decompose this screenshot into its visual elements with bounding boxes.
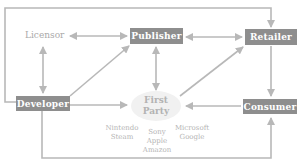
example-sony: Sony bbox=[140, 128, 174, 137]
node-consumer: Consumer bbox=[243, 99, 297, 114]
edge-developer-retailer-loop bbox=[5, 8, 271, 102]
example-microsoft: Microsoft bbox=[172, 124, 212, 133]
examples-left: Nintendo Steam bbox=[104, 124, 140, 142]
example-apple: Apple bbox=[140, 137, 174, 146]
edge-firstparty-retailer bbox=[180, 47, 243, 96]
example-nintendo: Nintendo bbox=[104, 124, 140, 133]
examples-center: Sony Apple Amazon bbox=[140, 128, 174, 155]
node-developer: Developer bbox=[16, 96, 70, 111]
edge-developer-publisher bbox=[70, 46, 129, 96]
example-amazon: Amazon bbox=[140, 146, 174, 155]
node-publisher: Publisher bbox=[130, 28, 183, 44]
example-google: Google bbox=[172, 133, 212, 142]
node-licensor: Licensor bbox=[25, 30, 64, 40]
examples-right: Microsoft Google bbox=[172, 124, 212, 142]
first-party-line1: First bbox=[144, 95, 168, 106]
first-party-line2: Party bbox=[143, 106, 170, 117]
example-steam: Steam bbox=[104, 133, 140, 142]
node-first-party: First Party bbox=[131, 91, 181, 121]
node-retailer: Retailer bbox=[245, 29, 297, 45]
